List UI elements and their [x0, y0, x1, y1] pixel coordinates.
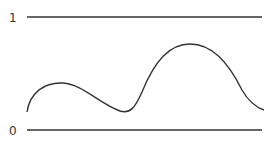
y-tick-1: 1	[9, 11, 17, 25]
y-tick-0: 0	[9, 124, 17, 138]
chart: 1 0	[0, 0, 276, 145]
data-curve	[27, 44, 264, 112]
